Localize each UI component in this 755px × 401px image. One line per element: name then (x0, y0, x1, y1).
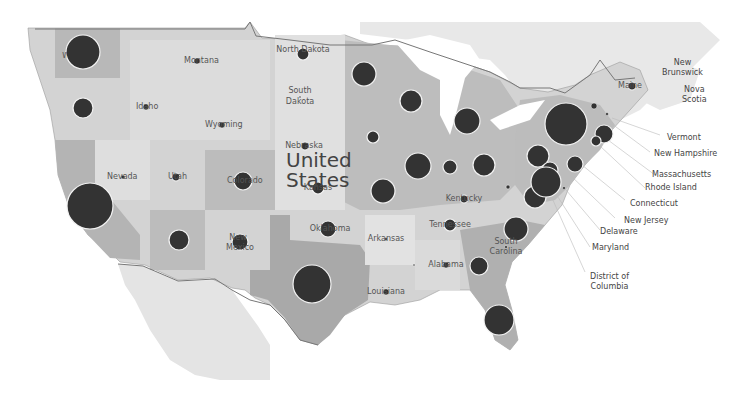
callout-vermont: Vermont (667, 133, 701, 143)
label-oklahoma: Oklahoma (310, 225, 351, 233)
label-new-mexico-1: New (229, 234, 246, 242)
label-alabama: Alabama (428, 261, 463, 269)
bubble-washington[interactable] (66, 35, 100, 69)
label-new-mexico-2: Mexico (226, 244, 254, 252)
bubble-maryland[interactable] (531, 167, 561, 197)
bubble-iowa[interactable] (367, 131, 379, 143)
bubble-new-hampshire[interactable] (606, 113, 609, 116)
mountain-light (130, 40, 270, 140)
bubble-oregon[interactable] (73, 98, 93, 118)
callout-delaware: Delaware (600, 227, 638, 237)
label-wyoming: Wyoming (205, 121, 243, 129)
label-washington: Washington (62, 52, 67, 62)
country-label-line2: States (286, 170, 349, 190)
bubble-west-virginia[interactable] (506, 185, 510, 189)
label-nova-scotia: NovaScotia (682, 85, 707, 105)
bubble-missouri[interactable] (371, 179, 395, 203)
callout-massachusetts: Massachusetts (652, 170, 711, 180)
label-arkansas: Arkansas (368, 235, 404, 243)
label-tennessee: Tennessee (429, 221, 471, 229)
callout-new-hampshire: New Hampshire (654, 149, 717, 159)
label-louisiana: Louisiana (367, 288, 405, 296)
bubble-mississippi[interactable] (413, 264, 415, 266)
label-south-dakota-1: South (288, 87, 311, 95)
label-south-carolina-2: Carolina (490, 248, 523, 256)
label-kentucky: Kentucky (446, 195, 483, 203)
bubble-georgia[interactable] (470, 257, 488, 275)
label-maine: Maine (618, 82, 642, 90)
label-nevada: Nevada (107, 173, 138, 181)
bubble-new-york[interactable] (545, 103, 587, 145)
bubble-delaware[interactable] (563, 187, 566, 190)
bubble-illinois[interactable] (405, 153, 431, 179)
bubble-california[interactable] (67, 183, 113, 229)
callout-rhode-island: Rhode Island (645, 183, 697, 193)
bubble-michigan[interactable] (454, 108, 480, 134)
label-south-dakota-2: Dakota (286, 98, 314, 106)
bubble-rhode-island[interactable] (591, 136, 601, 146)
label-colorado: Colorado (227, 177, 263, 185)
label-utah: Utah (168, 173, 187, 181)
bubble-vermont[interactable] (591, 103, 597, 109)
bubble-texas[interactable] (293, 265, 331, 303)
label-south-carolina-1: South (494, 238, 517, 246)
callout-maryland: Maryland (592, 243, 629, 253)
bubble-wisconsin[interactable] (400, 90, 422, 112)
callout-connecticut: Connecticut (630, 199, 678, 209)
bubble-connecticut[interactable] (567, 156, 583, 172)
callout-dc: District ofColumbia (590, 272, 629, 292)
bubble-minnesota[interactable] (352, 62, 376, 86)
label-new-brunswick: NewBrunswick (662, 58, 703, 78)
bubble-indiana[interactable] (443, 160, 457, 174)
country-label-line1: United (286, 150, 352, 170)
bubble-florida[interactable] (484, 305, 514, 335)
bubble-arizona[interactable] (169, 230, 189, 250)
label-north-dakota: North Dakota (276, 46, 329, 54)
bubble-ohio[interactable] (473, 154, 495, 176)
callout-new-jersey: New Jersey (624, 216, 668, 226)
label-montana: Montana (184, 57, 219, 65)
label-idaho: Idaho (136, 103, 158, 111)
